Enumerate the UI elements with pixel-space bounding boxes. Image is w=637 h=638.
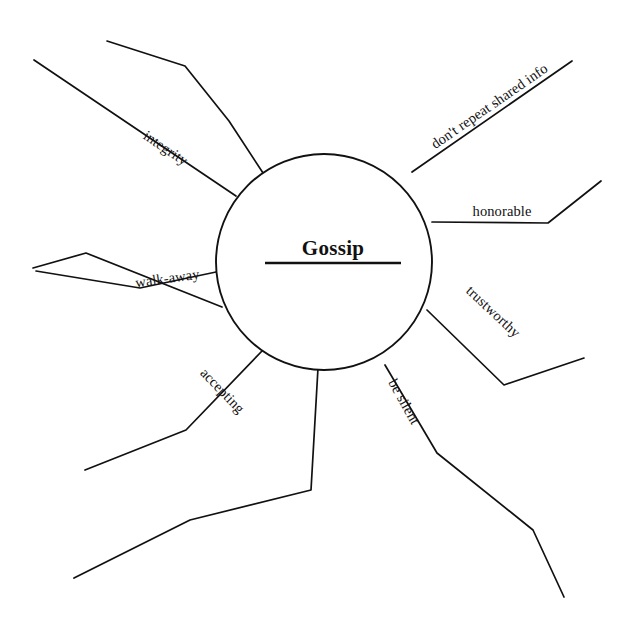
center-node-group: Gossip [216,154,432,370]
mind-map-diagram: Gossip integritywalk-awayacceptingbe sil… [0,0,637,638]
center-title: Gossip [302,236,365,260]
branch-dont-repeat-shared-info-label: don't repeat shared info [428,60,551,152]
branch-dont-repeat-shared-info[interactable] [412,61,572,172]
branch-trustworthy-label: trustworthy [463,282,524,340]
branch-walk-away-label: walk-away [134,266,201,291]
branch-be-silent-label: be silent [385,376,423,427]
branch-unlabeled-bottom-left[interactable] [74,368,318,578]
mind-map-canvas: Gossip integritywalk-awayacceptingbe sil… [0,0,637,638]
branch-integrity-label: integrity [141,127,192,169]
branch-integrity[interactable] [34,60,236,196]
branch-honorable-label: honorable [473,203,532,219]
